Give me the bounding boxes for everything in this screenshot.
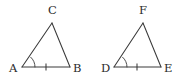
angle-arc-a <box>31 57 35 67</box>
triangle-def: D E F <box>101 3 172 75</box>
vertex-label-e: E <box>164 61 172 75</box>
side-fd <box>114 23 143 67</box>
vertex-label-b: B <box>73 61 81 75</box>
side-ef <box>143 23 161 67</box>
angle-arc-d <box>123 57 127 67</box>
side-bc <box>52 23 70 67</box>
geometry-figure: A B C D E F <box>0 0 190 84</box>
side-ca <box>22 23 52 67</box>
geometry-canvas: A B C D E F <box>0 0 190 84</box>
vertex-label-d: D <box>101 61 110 75</box>
triangle-abc: A B C <box>8 3 81 75</box>
vertex-label-c: C <box>48 3 57 17</box>
vertex-label-f: F <box>139 3 147 17</box>
vertex-label-a: A <box>8 61 18 75</box>
